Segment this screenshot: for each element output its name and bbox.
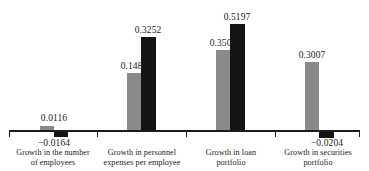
bar-securities-gray — [305, 62, 319, 130]
value-label-loan-black: 0.5197 — [207, 12, 267, 22]
bar-personnel-gray — [127, 73, 141, 130]
plot-area: 0.0116 −0.0164 0.1489 0.3252 0.3508 0.51… — [0, 0, 369, 132]
category-label-securities-line1: Growth in securities — [274, 148, 362, 158]
category-label-personnel-line1: Growth in personnel — [95, 148, 189, 158]
category-label-securities-line2: portfolio — [274, 158, 362, 168]
category-axis: Growth in the number of employees Growth… — [0, 148, 369, 171]
axis-tick-0 — [9, 130, 10, 137]
category-label-loan-line2: portfolio — [185, 158, 277, 168]
value-label-personnel-gray: 0.1489 — [104, 61, 164, 71]
value-label-securities-gray: 0.3007 — [282, 50, 342, 60]
axis-tick-4 — [359, 130, 360, 137]
value-label-loan-gray: 0.3508 — [193, 38, 253, 48]
value-label-personnel-black: 0.3252 — [118, 25, 178, 35]
bar-personnel-black — [141, 37, 156, 130]
axis-baseline — [9, 130, 360, 132]
category-label-personnel: Growth in personnel expenses per employe… — [95, 148, 189, 168]
category-label-employees-line1: Growth in the number — [5, 148, 101, 158]
value-label-securities-black: −0.0204 — [289, 138, 365, 148]
axis-tick-2 — [186, 130, 187, 137]
category-label-loan-line1: Growth in loan — [185, 148, 277, 158]
category-label-personnel-line2: expenses per employee — [95, 158, 189, 168]
axis-tick-3 — [275, 130, 276, 137]
value-label-employees-gray: 0.0116 — [14, 113, 94, 123]
category-label-employees: Growth in the number of employees — [5, 148, 101, 168]
axis-tick-1 — [97, 130, 98, 137]
category-label-employees-line2: of employees — [5, 158, 101, 168]
category-label-loan: Growth in loan portfolio — [185, 148, 277, 168]
bar-loan-gray — [216, 50, 230, 130]
category-label-securities: Growth in securities portfolio — [274, 148, 362, 168]
bar-chart: 0.0116 −0.0164 0.1489 0.3252 0.3508 0.51… — [0, 0, 369, 171]
value-label-employees-black: −0.0164 — [14, 138, 94, 148]
